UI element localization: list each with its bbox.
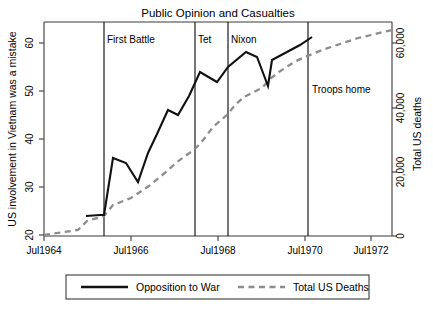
y-tick-label-40: 40 [24, 133, 35, 145]
x-tick-label-jul1966: Jul1966 [113, 245, 148, 256]
y-tick-label-60: 60 [24, 37, 35, 49]
y-axis-right-title: Total US deaths [411, 97, 423, 171]
x-tick-label-jul1972: Jul1972 [353, 245, 388, 256]
legend-label-opposition-to-war: Opposition to War [136, 281, 220, 293]
annotation-tet: Tet [198, 34, 212, 45]
annotation-troops-home: Troops home [312, 84, 371, 95]
annotation-nixon: Nixon [231, 34, 257, 45]
y2-tick-label-60000: 60,000 [395, 27, 406, 58]
event-markers: First Battle Tet Nixon Troops home [104, 22, 371, 236]
y-tick-label-50: 50 [24, 85, 35, 97]
chart-figure: Public Opinion and Casualties 60 50 40 3… [0, 0, 433, 311]
series-opposition-to-war [86, 37, 312, 216]
plot-frame [44, 22, 392, 236]
y-axis-left: 60 50 40 30 20 US involvement in Vietnam… [6, 31, 44, 240]
y-tick-label-20: 20 [24, 229, 35, 241]
series-total-us-deaths [44, 30, 392, 235]
annotation-first-battle: First Battle [107, 34, 155, 45]
y-axis-left-title: US involvement in Vietnam was a mistake [6, 31, 18, 226]
x-tick-label-jul1970: Jul1970 [287, 245, 322, 256]
chart-title: Public Opinion and Casualties [141, 7, 295, 19]
y2-tick-label-40000: 40,000 [395, 92, 406, 123]
y-tick-label-30: 30 [24, 181, 35, 193]
y2-tick-label-0: 0 [395, 233, 406, 239]
x-axis: Jul1964 Jul1966 Jul1968 Jul1970 Jul1972 [26, 236, 388, 256]
y2-tick-label-20000: 20,000 [395, 156, 406, 187]
x-tick-label-jul1968: Jul1968 [200, 245, 235, 256]
legend-label-total-us-deaths: Total US Deaths [293, 281, 369, 293]
legend: Opposition to War Total US Deaths [66, 275, 369, 299]
y-axis-right: 60,000 40,000 20,000 0 Total US deaths [392, 27, 423, 239]
chart-svg: Public Opinion and Casualties 60 50 40 3… [0, 0, 433, 311]
x-tick-label-jul1964: Jul1964 [26, 245, 61, 256]
